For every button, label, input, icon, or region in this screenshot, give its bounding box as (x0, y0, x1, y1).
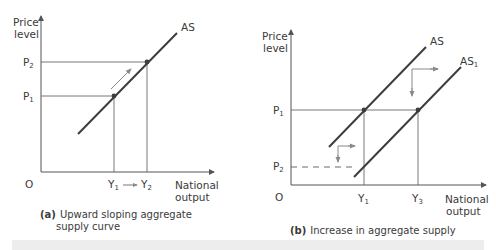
output-label-y3-b: Y3 (411, 192, 423, 206)
origin-label-a: O (25, 178, 33, 190)
as-curve-a (78, 33, 177, 134)
point-p1-y1-b (362, 108, 367, 113)
curve-label-as1-b: AS1 (460, 55, 478, 69)
shift-arrow-lower-right-icon (338, 146, 354, 161)
price-label-p2-b: P2 (273, 160, 284, 174)
caption-a-line2: supply curve (56, 221, 120, 232)
caption-b: (b)Increase in aggregate supply (290, 225, 456, 236)
output-label-y1-b: Y1 (357, 192, 369, 206)
point-p1-y3-b (416, 108, 421, 113)
bottom-divider-band (12, 240, 484, 250)
y-axis-label-b-1: Price (262, 30, 288, 42)
price-label-p1-a: P1 (23, 90, 34, 104)
origin-label-b: O (275, 191, 283, 203)
curve-label-as-a: AS (181, 21, 195, 33)
output-label-y2-a: Y2 (140, 178, 152, 192)
point-p1-y1 (112, 94, 117, 99)
panel-a: Price level AS P2 P1 O Y1 Y2 National ou… (13, 16, 219, 232)
y-axis-label-a-2: level (14, 28, 39, 40)
y-axis-label-b-2: level (263, 42, 288, 54)
caption-a-line1: (a)Upward sloping aggregate (40, 209, 192, 220)
movement-arrow-icon (111, 69, 131, 89)
x-axis-label-a-2: output (175, 191, 210, 203)
aggregate-supply-figure: Price level AS P2 P1 O Y1 Y2 National ou… (0, 0, 496, 250)
curve-label-as-b: AS (430, 35, 444, 47)
x-axis-label-b-1: National (445, 193, 489, 205)
as-curve-b (329, 47, 426, 147)
shift-arrow-upper-right-icon (412, 69, 438, 95)
point-p2-y2 (145, 60, 150, 65)
x-axis-label-a-1: National (175, 179, 219, 191)
price-label-p2-a: P2 (23, 56, 34, 70)
x-axis-label-b-2: output (446, 205, 481, 217)
price-label-p1-b: P1 (273, 104, 284, 118)
as1-curve-b (354, 67, 461, 177)
output-label-y1-a: Y1 (107, 178, 119, 192)
y-axis-label-a-1: Price (13, 16, 39, 28)
panel-b: Price level AS AS1 P1 P2 O Y1 Y3 Nationa… (262, 30, 489, 236)
